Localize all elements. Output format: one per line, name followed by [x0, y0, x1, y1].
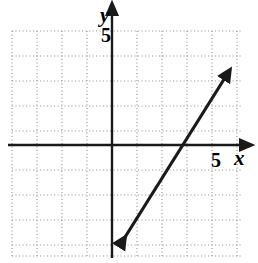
x-axis-label: x	[234, 148, 245, 169]
plot-canvas	[0, 0, 258, 263]
plotted-line	[120, 78, 225, 245]
grid-vertical-lines	[12, 31, 237, 256]
y-axis-label: y	[100, 5, 109, 26]
y-axis-tick-label-5: 5	[101, 25, 111, 45]
grid-horizontal-lines	[12, 31, 243, 256]
coordinate-graph-figure: y x 5 5	[0, 0, 258, 263]
x-axis-tick-label-5: 5	[211, 150, 221, 170]
